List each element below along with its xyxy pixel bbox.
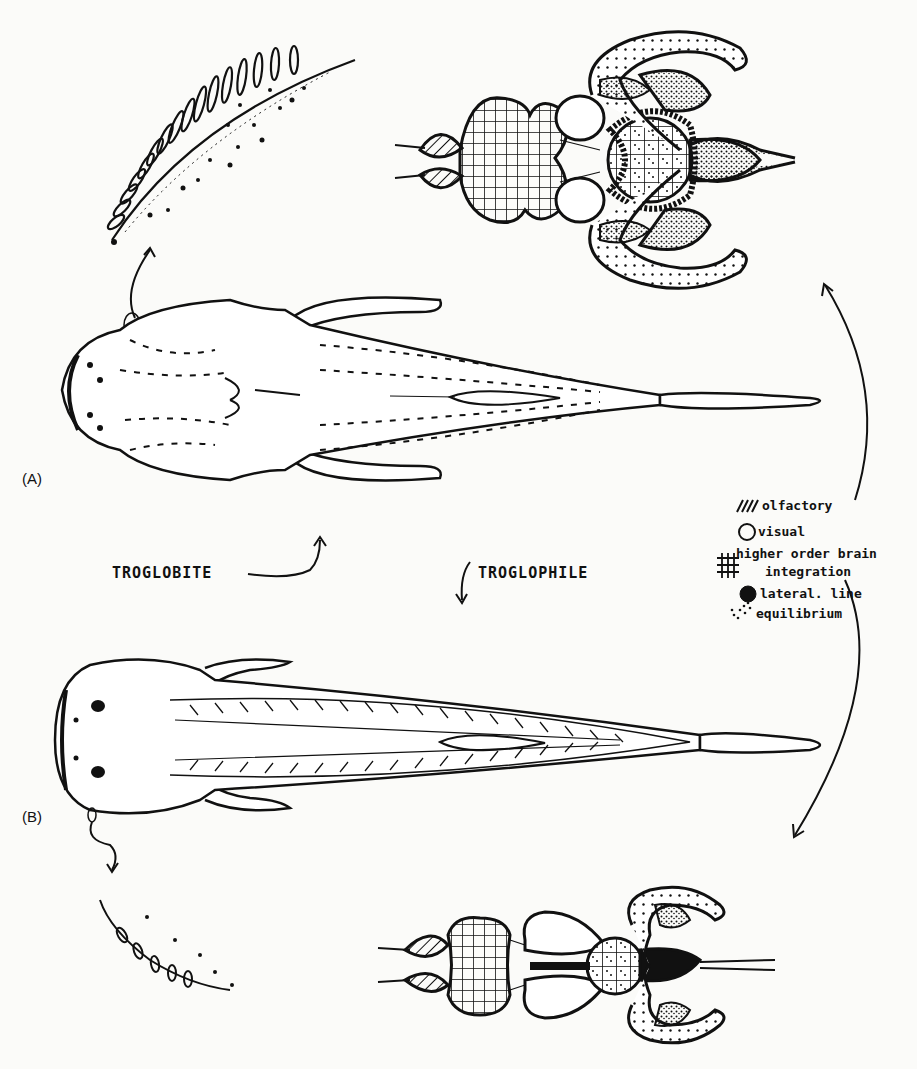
fish-troglophile (55, 660, 820, 814)
brain-troglobite (395, 32, 795, 289)
panel-label-b: (B) (22, 808, 42, 825)
legend-olfactory: olfactory (762, 498, 832, 513)
legend-equilibrium: equilibrium (756, 606, 842, 621)
fish-troglobite (62, 298, 820, 481)
arrow-up-to-top-brain (822, 284, 867, 500)
troglobite-label: TROGLOBITE (112, 564, 212, 582)
troglophile-arrow (456, 562, 470, 603)
arrow-to-detail-b (88, 808, 118, 872)
lateral-line-detail-b (100, 900, 234, 990)
troglobite-arrow (248, 537, 326, 576)
legend-visual: visual (758, 524, 805, 539)
legend-higher-order: higher order brain (736, 546, 877, 561)
legend-lateral-line: lateral. line (760, 586, 862, 601)
brain-troglophile (378, 887, 775, 1043)
troglophile-label: TROGLOPHILE (478, 564, 588, 582)
legend-integration: integration (765, 564, 851, 579)
panel-label-a: (A) (22, 470, 42, 487)
lateral-line-detail-a (106, 46, 355, 245)
